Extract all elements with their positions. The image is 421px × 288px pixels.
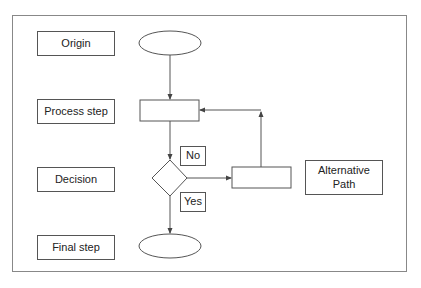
branch-yes-label: Yes	[180, 192, 206, 212]
branch-no-text: No	[186, 149, 200, 163]
alternative-rect	[232, 167, 291, 188]
alternative-path-text: Alternative Path	[314, 164, 374, 192]
alternative-path-label: Alternative Path	[305, 160, 383, 195]
end-ellipse	[139, 234, 201, 258]
process-rect	[140, 100, 199, 121]
flowchart-canvas	[0, 0, 421, 288]
branch-yes-text: Yes	[184, 195, 202, 209]
branch-no-label: No	[180, 146, 206, 166]
start-ellipse	[139, 31, 201, 55]
